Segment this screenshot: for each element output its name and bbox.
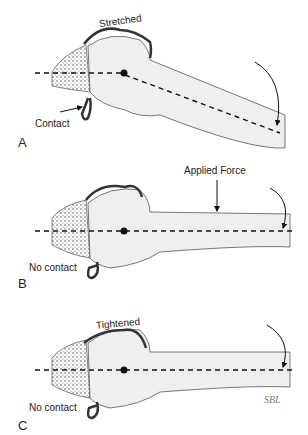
glenoid — [52, 45, 90, 92]
center-point — [121, 228, 128, 235]
capsule-bottom — [88, 402, 98, 418]
label-applied-force: Applied Force — [184, 165, 246, 176]
panel-letter-b: B — [18, 276, 27, 291]
contact-capsule — [82, 98, 91, 119]
humerus — [88, 189, 290, 268]
glenoid — [52, 200, 90, 258]
label-tightened: Tightened — [96, 316, 141, 331]
label-contact: Contact — [35, 118, 70, 129]
shoulder-diagram: Stretched Contact A Applied Force No con… — [0, 0, 308, 435]
label-no-contact: No contact — [29, 262, 77, 273]
label-stretched: Stretched — [98, 12, 142, 29]
panel-c: Tightened No contact C SBL — [18, 316, 293, 433]
glenoid — [52, 340, 90, 398]
panel-b: Applied Force No contact B — [18, 165, 293, 291]
capsule-bottom — [88, 262, 98, 278]
humerus — [88, 36, 285, 148]
humerus — [88, 329, 290, 408]
artist-signature: SBL — [264, 394, 281, 405]
contact-arrow — [60, 107, 82, 112]
center-point — [121, 70, 128, 77]
panel-letter-a: A — [18, 135, 27, 150]
panel-letter-c: C — [18, 418, 27, 433]
center-point — [121, 367, 128, 374]
panel-a: Stretched Contact A — [18, 12, 285, 150]
label-no-contact: No contact — [29, 402, 77, 413]
